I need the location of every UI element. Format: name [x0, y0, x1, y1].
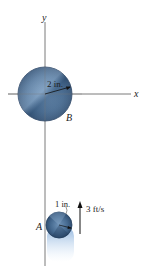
disk-b-radius-label: 2 in.	[47, 79, 63, 89]
kinematics-diagram: y x 2 in. B 1 in. A 3 ft/s	[0, 0, 149, 279]
disk-a-label: A	[35, 221, 43, 232]
velocity-label: 3 ft/s	[86, 204, 105, 214]
y-axis-label: y	[41, 12, 47, 23]
disk-a	[46, 212, 72, 239]
x-axis-label: x	[133, 88, 139, 99]
disk-a-radius-label: 1 in.	[55, 199, 70, 209]
velocity-arrow-icon	[78, 201, 83, 208]
disk-b-label: B	[66, 112, 72, 123]
